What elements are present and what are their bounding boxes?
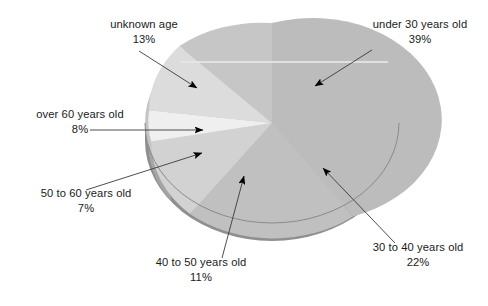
pie-label-40-to-50-name: 40 to 50 years old <box>134 255 268 270</box>
pie-label-over-60: over 60 years old 8% <box>16 107 144 137</box>
pie-label-40-to-50-percent: 11% <box>134 270 268 285</box>
pie-chart-page: unknown age 13% under 30 years old 39% o… <box>0 0 488 306</box>
pie-label-50-to-60-name: 50 to 60 years old <box>22 186 150 201</box>
pie-label-under-30-percent: 39% <box>356 32 484 47</box>
pie-label-under-30: under 30 years old 39% <box>356 17 484 47</box>
pie-label-30-to-40-percent: 22% <box>352 255 484 270</box>
pie-label-unknown-age: unknown age 13% <box>84 17 204 47</box>
pie-label-30-to-40-name: 30 to 40 years old <box>352 240 484 255</box>
pie-label-40-to-50: 40 to 50 years old 11% <box>134 255 268 285</box>
pie-label-unknown-age-percent: 13% <box>84 32 204 47</box>
pie-label-50-to-60: 50 to 60 years old 7% <box>22 186 150 216</box>
pie-label-unknown-age-name: unknown age <box>84 17 204 32</box>
pie-label-over-60-name: over 60 years old <box>16 107 144 122</box>
pie-3d-body <box>145 18 442 241</box>
pie-label-under-30-name: under 30 years old <box>356 17 484 32</box>
pie-label-50-to-60-percent: 7% <box>22 201 150 216</box>
pie-label-30-to-40: 30 to 40 years old 22% <box>352 240 484 270</box>
pie-label-over-60-percent: 8% <box>16 122 144 137</box>
